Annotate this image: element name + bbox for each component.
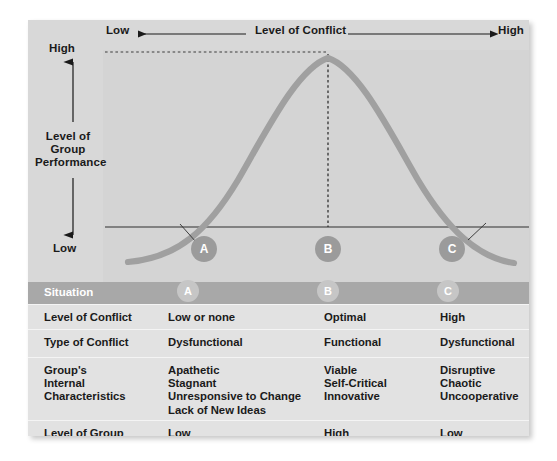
row-cell-a: Low bbox=[168, 427, 191, 436]
y-axis-high-label: High bbox=[49, 42, 75, 54]
table-row: Level of Group Performance Low High Low bbox=[28, 420, 529, 436]
row-cell-a: Dysfunctional bbox=[168, 336, 243, 349]
marker-c-leader-line bbox=[468, 223, 486, 240]
x-axis-high-label: High bbox=[498, 24, 524, 36]
row-cell-b: Functional bbox=[324, 336, 381, 349]
row-cell-c: Dysfunctional bbox=[440, 336, 515, 349]
row-cell-a: Low or none bbox=[168, 311, 235, 324]
row-cell-a: Apathetic Stagnant Unresponsive to Chang… bbox=[168, 364, 301, 417]
table-header-row: Situation A B C bbox=[28, 282, 529, 304]
table-row: Group's Internal Characteristics Apathet… bbox=[28, 357, 529, 420]
row-cell-b: Viable Self-Critical Innovative bbox=[324, 364, 387, 404]
row-label: Level of Group Performance bbox=[44, 427, 124, 436]
row-label: Group's Internal Characteristics bbox=[44, 364, 126, 404]
chart-region: High --> Low Level of Conflict High High… bbox=[28, 20, 529, 282]
table-row: Type of Conflict Dysfunctional Functiona… bbox=[28, 329, 529, 357]
row-label: Level of Conflict bbox=[44, 311, 132, 324]
table-header-marker-b: B bbox=[317, 280, 339, 302]
table-header-situation-label: Situation bbox=[44, 286, 93, 298]
conflict-performance-figure: High --> Low Level of Conflict High High… bbox=[28, 20, 529, 436]
row-cell-b: Optimal bbox=[324, 311, 366, 324]
table-header-marker-c: C bbox=[437, 280, 459, 302]
row-cell-c: High bbox=[440, 311, 465, 324]
row-cell-b: High bbox=[324, 427, 349, 436]
x-axis-low-label: Low bbox=[106, 24, 129, 36]
y-axis-title: Level of Group Performance bbox=[35, 130, 101, 169]
performance-curve bbox=[128, 58, 514, 263]
y-axis-low-label: Low bbox=[53, 242, 76, 254]
situation-table: Situation A B C Level of Conflict Low or… bbox=[28, 282, 529, 436]
chart-marker-c[interactable]: C bbox=[439, 236, 465, 262]
chart-marker-b[interactable]: B bbox=[315, 236, 341, 262]
chart-marker-a[interactable]: A bbox=[191, 236, 217, 262]
table-row: Level of Conflict Low or none Optimal Hi… bbox=[28, 304, 529, 329]
row-cell-c: Low bbox=[440, 427, 463, 436]
row-cell-c: Disruptive Chaotic Uncooperative bbox=[440, 364, 518, 404]
table-header-marker-a: A bbox=[177, 280, 199, 302]
x-axis-title: Level of Conflict bbox=[255, 24, 346, 36]
row-label: Type of Conflict bbox=[44, 336, 129, 349]
